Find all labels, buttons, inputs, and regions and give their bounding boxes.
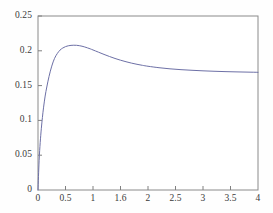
y-tick-label: 0 (0, 185, 32, 195)
x-tick-label: 3 (201, 194, 206, 204)
y-tick-label: 0.25 (0, 11, 32, 21)
x-tick-label: 0.5 (59, 194, 71, 204)
x-tick-label: 4 (256, 194, 261, 204)
x-tick-label: 1 (91, 194, 96, 204)
x-tick-label: 0 (36, 194, 41, 204)
figure-container: 00.511.622.533.54 00.050.10.150.20.25 (0, 0, 273, 213)
plot-canvas (0, 0, 273, 213)
y-tick-label: 0.05 (0, 150, 32, 160)
x-tick-label: 1.6 (114, 194, 126, 204)
y-tick-label: 0.2 (0, 46, 32, 56)
axes-frame (38, 16, 258, 190)
x-tick-label: 2 (146, 194, 151, 204)
y-tick-label: 0.1 (0, 116, 32, 126)
x-tick-label: 2.5 (169, 194, 181, 204)
x-tick-label: 3.5 (224, 194, 236, 204)
y-tick-label: 0.15 (0, 81, 32, 91)
